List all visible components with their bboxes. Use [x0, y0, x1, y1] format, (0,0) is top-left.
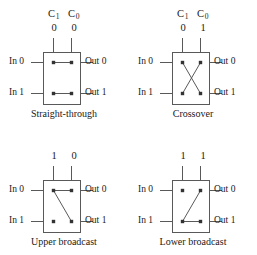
- control-value-c0: 1: [193, 150, 213, 162]
- cell-caption: Crossover: [129, 108, 257, 120]
- dot-in0: [52, 61, 55, 64]
- dot-in0: [52, 189, 55, 192]
- control-value-c1: 1: [173, 150, 193, 162]
- control-label-c1: C1: [173, 8, 193, 21]
- control-values: 00: [0, 22, 128, 34]
- control-values: 01: [129, 22, 257, 34]
- switch-cell-straight-through: C1C0 00 In 0 In 1 Out 0 Out 1 Straight-t…: [0, 0, 128, 127]
- port-label-in1: In 1: [9, 215, 24, 226]
- port-label-in0: In 0: [9, 56, 24, 67]
- dot-out1: [199, 220, 202, 223]
- cell-caption: Straight-through: [0, 108, 128, 120]
- link-in0-out1: [54, 191, 72, 222]
- dot-out1: [199, 92, 202, 95]
- dot-out1: [70, 220, 73, 223]
- switch-cell-crossover: C1C0 01 In 0 In 1 Out 0 Out 1 Crossover: [129, 0, 257, 127]
- dot-in1: [52, 92, 55, 95]
- dot-in1: [181, 92, 184, 95]
- dot-out1: [70, 92, 73, 95]
- port-label-in0: In 0: [138, 56, 153, 67]
- switch-cell-lower-broadcast: 11 In 0 In 1 Out 0 Out 1 Lower broadcast: [129, 128, 257, 255]
- link-in1-out0: [183, 191, 201, 222]
- control-value-c1: 1: [44, 150, 64, 162]
- port-label-in0: In 0: [138, 184, 153, 195]
- port-label-in1: In 1: [138, 215, 153, 226]
- switch-cell-upper-broadcast: 10 In 0 In 1 Out 0 Out 1 Upper broadcast: [0, 128, 128, 255]
- cell-caption: Lower broadcast: [129, 236, 257, 248]
- port-label-out1: Out 1: [214, 87, 235, 98]
- dot-in0: [181, 189, 184, 192]
- switch-box: [44, 53, 81, 105]
- switching-element-figure: C1C0 00 In 0 In 1 Out 0 Out 1 Straight-t…: [0, 0, 257, 255]
- dot-in1: [181, 220, 184, 223]
- control-header: C1C0: [0, 8, 128, 21]
- switch-box: [44, 181, 81, 233]
- port-label-out1: Out 1: [85, 215, 106, 226]
- port-label-out1: Out 1: [85, 87, 106, 98]
- port-label-out1: Out 1: [214, 215, 235, 226]
- dot-out0: [199, 189, 202, 192]
- port-label-out0: Out 0: [214, 56, 235, 67]
- dot-out0: [199, 61, 202, 64]
- dot-out0: [70, 61, 73, 64]
- control-value-c1: 0: [173, 22, 193, 34]
- control-value-c0: 0: [64, 150, 84, 162]
- port-label-out0: Out 0: [85, 56, 106, 67]
- dot-in0: [181, 61, 184, 64]
- control-label-c0: C0: [193, 8, 213, 21]
- control-header: C1C0: [129, 8, 257, 21]
- dot-out0: [70, 189, 73, 192]
- control-label-c0: C0: [64, 8, 84, 21]
- cell-caption: Upper broadcast: [0, 236, 128, 248]
- port-label-in1: In 1: [9, 87, 24, 98]
- control-values: 11: [129, 150, 257, 162]
- control-value-c1: 0: [44, 22, 64, 34]
- port-label-out0: Out 0: [214, 184, 235, 195]
- control-label-c1: C1: [44, 8, 64, 21]
- control-values: 10: [0, 150, 128, 162]
- port-label-in1: In 1: [138, 87, 153, 98]
- control-value-c0: 0: [64, 22, 84, 34]
- port-label-in0: In 0: [9, 184, 24, 195]
- control-value-c0: 1: [193, 22, 213, 34]
- terminal-dots: [52, 61, 73, 95]
- port-label-out0: Out 0: [85, 184, 106, 195]
- dot-in1: [52, 220, 55, 223]
